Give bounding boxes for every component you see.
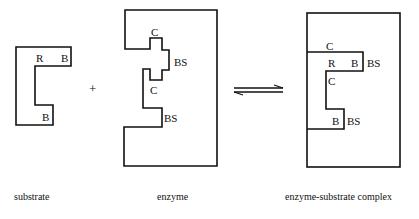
complex-label-b-top: B: [351, 57, 358, 69]
complex-label-bs-top: BS: [367, 57, 380, 69]
complex-label-c-mid: C: [328, 75, 335, 87]
enzyme-label-bs-bottom: BS: [164, 112, 177, 124]
enzyme-substrate-diagram: R B B substrate + C BS C BS enzyme C R B…: [0, 0, 419, 219]
substrate-label-b-bottom: B: [42, 111, 49, 123]
plus-sign: +: [89, 81, 96, 96]
complex-label-bs-bottom: BS: [347, 115, 360, 127]
enzyme-label-c-mid: C: [150, 84, 157, 96]
complex-label-r: R: [328, 57, 336, 69]
enzyme-label-bs-top: BS: [174, 56, 187, 68]
complex-label-c-top: C: [326, 40, 333, 52]
enzyme-substrate-complex: C R B BS C B BS enzyme-substrate complex: [285, 13, 400, 202]
complex-label-b-bottom: B: [332, 115, 339, 127]
equilibrium-arrows: [234, 85, 283, 95]
enzyme-caption: enzyme: [157, 191, 189, 202]
enzyme: C BS C BS enzyme: [124, 10, 217, 202]
enzyme-shape: [124, 10, 217, 166]
substrate-label-b-top: B: [61, 52, 68, 64]
substrate-label-r: R: [36, 52, 44, 64]
substrate-caption: substrate: [14, 191, 50, 202]
enzyme-label-c-top: C: [151, 26, 158, 38]
complex-enzyme-shape: [307, 13, 400, 167]
substrate: R B B substrate: [14, 47, 71, 202]
complex-caption: enzyme-substrate complex: [285, 191, 392, 202]
